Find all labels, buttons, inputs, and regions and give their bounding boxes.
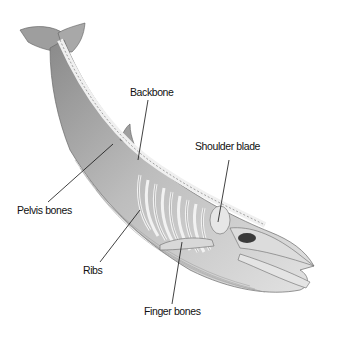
label-pelvis-bones: Pelvis bones bbox=[17, 204, 72, 216]
eye-socket bbox=[238, 233, 256, 243]
label-backbone: Backbone bbox=[130, 86, 174, 98]
label-shoulder-blade: Shoulder blade bbox=[195, 140, 260, 152]
label-ribs: Ribs bbox=[83, 264, 102, 276]
label-finger-bones: Finger bones bbox=[144, 305, 201, 317]
whale-illustration bbox=[0, 0, 337, 338]
backbone-leader bbox=[138, 100, 148, 160]
whale-skeleton-diagram: Backbone Shoulder blade Pelvis bones Rib… bbox=[0, 0, 337, 338]
